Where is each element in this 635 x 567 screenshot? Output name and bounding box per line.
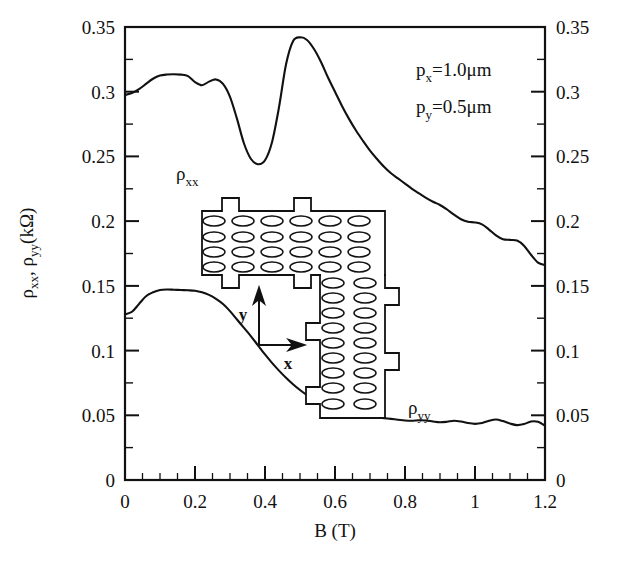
y-label-left-2: 0.25: [82, 146, 115, 167]
annotation-py-value: =0.5μm: [432, 96, 492, 117]
y-label-right-4: 0.15: [556, 276, 589, 297]
y-axis-title-rho1: ρ: [16, 289, 37, 298]
y-label-right-0: 0.35: [556, 17, 589, 38]
y-label-left-6: 0.05: [82, 405, 115, 426]
rho-xx-symbol: ρ: [176, 163, 185, 184]
y-label-right-7: 0: [556, 470, 566, 491]
x-label-1: 0.2: [183, 491, 207, 512]
inset-y-axis-letter: y: [239, 305, 248, 324]
y-label-left-5: 0.1: [91, 341, 115, 362]
figure-container: 0.35 0.3 0.25 0.2 0.15 0.1 0.05 0 0.35 0…: [0, 0, 635, 567]
y-axis-title-comma: ,: [16, 266, 37, 276]
x-axis-title: B (T): [314, 520, 356, 542]
y-label-left-4: 0.15: [82, 276, 115, 297]
x-label-0: 0: [120, 491, 130, 512]
x-axis-labels: 0 0.2 0.4 0.6 0.8 1 1.2: [120, 491, 557, 512]
y-label-right-2: 0.25: [556, 146, 589, 167]
y-label-left-1: 0.3: [91, 82, 115, 103]
rho-yy-symbol: ρ: [408, 397, 417, 418]
annotation-px-symbol: p: [416, 59, 426, 80]
svg-text:ρxx, ρyy(kΩ): ρxx, ρyy(kΩ): [16, 208, 41, 299]
device-vertical-bar-outline: [306, 275, 399, 418]
annotation-px-value: =1.0μm: [432, 59, 492, 80]
y-axis-title-sub2: yy: [26, 243, 41, 257]
x-label-3: 0.6: [323, 491, 347, 512]
y-label-right-1: 0.3: [556, 82, 580, 103]
y-axis-title-unit: (kΩ): [16, 208, 38, 244]
rho-xx-subscript: xx: [185, 174, 199, 189]
y-axis-left-labels: 0.35 0.3 0.25 0.2 0.15 0.1 0.05 0: [82, 17, 115, 491]
inset-x-axis-letter: x: [284, 354, 293, 373]
y-label-left-0: 0.35: [82, 17, 115, 38]
y-label-right-5: 0.1: [556, 341, 580, 362]
annotation-py-symbol: p: [416, 96, 426, 117]
y-axis-title: ρxx, ρyy(kΩ): [16, 208, 41, 299]
y-label-left-7: 0: [106, 470, 116, 491]
y-label-right-3: 0.2: [556, 211, 580, 232]
x-label-6: 1.2: [533, 491, 557, 512]
x-label-2: 0.4: [253, 491, 277, 512]
y-axis-title-rho2: ρ: [16, 257, 37, 266]
x-label-5: 1: [470, 491, 480, 512]
y-axis-right-labels: 0.35 0.3 0.25 0.2 0.15 0.1 0.05 0: [556, 17, 589, 491]
y-label-right-6: 0.05: [556, 405, 589, 426]
magnetotransport-chart: 0.35 0.3 0.25 0.2 0.15 0.1 0.05 0 0.35 0…: [0, 0, 635, 567]
y-axis-title-sub1: xx: [26, 275, 41, 289]
x-label-4: 0.8: [393, 491, 417, 512]
rho-yy-subscript: yy: [417, 408, 431, 423]
y-label-left-3: 0.2: [91, 211, 115, 232]
